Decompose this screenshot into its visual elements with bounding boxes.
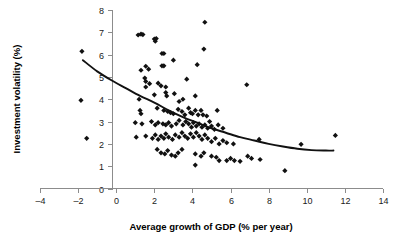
y-axis-title: Investment volatility (%) xyxy=(11,45,22,154)
data-point xyxy=(201,46,206,51)
data-point xyxy=(133,120,138,125)
y-axis-tick-labels: 012345678 xyxy=(99,6,104,195)
data-point xyxy=(298,142,303,147)
data-point xyxy=(184,77,189,82)
data-point xyxy=(196,112,201,117)
data-point xyxy=(143,133,148,138)
data-point xyxy=(139,121,144,126)
data-point xyxy=(84,136,89,141)
data-point xyxy=(138,68,143,73)
data-point xyxy=(216,122,221,127)
y-axis: 012345678 xyxy=(99,6,113,195)
data-point xyxy=(143,84,148,89)
data-point xyxy=(231,141,236,146)
y-tick-label: 1 xyxy=(99,162,104,172)
data-point xyxy=(213,136,218,141)
data-point xyxy=(193,162,198,167)
x-tick-label: 12 xyxy=(340,196,350,206)
y-tick-label: 2 xyxy=(99,140,104,150)
data-point xyxy=(171,58,176,63)
y-tick-label: 7 xyxy=(99,28,104,38)
data-point xyxy=(158,150,163,155)
x-tick-label: 6 xyxy=(229,196,234,206)
data-point xyxy=(78,98,83,103)
x-tick-label: 8 xyxy=(267,196,272,206)
data-point xyxy=(136,97,141,102)
x-axis: –4–202468101214 xyxy=(35,189,388,207)
data-point xyxy=(179,147,184,152)
data-point xyxy=(134,135,139,140)
x-tick-label: –4 xyxy=(35,196,45,206)
data-point xyxy=(198,108,203,113)
x-tick-label: 0 xyxy=(114,196,119,206)
data-point xyxy=(220,126,225,131)
y-axis-ticks xyxy=(108,11,113,190)
data-point xyxy=(209,154,214,159)
data-point xyxy=(209,139,214,144)
x-tick-label: 2 xyxy=(152,196,157,206)
data-point xyxy=(193,93,198,98)
scatter-points-group xyxy=(78,20,338,174)
x-tick-label: –2 xyxy=(73,196,83,206)
x-axis-tick-labels: –4–202468101214 xyxy=(35,196,388,206)
data-point xyxy=(217,141,222,146)
x-axis-ticks xyxy=(41,189,384,194)
y-tick-label: 3 xyxy=(99,118,104,128)
data-point xyxy=(237,159,242,164)
data-point xyxy=(149,119,154,124)
data-point xyxy=(333,133,338,138)
x-tick-label: 10 xyxy=(302,196,312,206)
data-point xyxy=(79,49,84,54)
data-point xyxy=(244,82,249,87)
data-point xyxy=(155,147,160,152)
x-axis-title: Average growth of GDP (% per year) xyxy=(129,221,292,232)
y-tick-label: 4 xyxy=(99,95,104,105)
data-point xyxy=(195,62,200,67)
data-point xyxy=(186,106,191,111)
data-point xyxy=(257,157,262,162)
data-point xyxy=(172,91,177,96)
y-tick-label: 8 xyxy=(99,6,104,16)
x-tick-label: 4 xyxy=(190,196,195,206)
data-point xyxy=(282,168,287,173)
data-point xyxy=(169,152,174,157)
data-point xyxy=(152,92,157,97)
data-point xyxy=(200,112,205,117)
x-tick-label: 14 xyxy=(378,196,388,206)
investment-volatility-scatter-chart: 012345678 –4–202468101214 Average growth… xyxy=(0,0,403,239)
data-point xyxy=(215,108,220,113)
data-point xyxy=(193,151,198,156)
data-point xyxy=(202,20,207,25)
chart-canvas: 012345678 –4–202468101214 Average growth… xyxy=(0,0,403,239)
y-tick-label: 6 xyxy=(99,51,104,61)
data-point xyxy=(207,119,212,124)
data-point xyxy=(155,106,160,111)
data-point xyxy=(163,84,168,89)
y-tick-label: 0 xyxy=(99,185,104,195)
data-point xyxy=(204,113,209,118)
